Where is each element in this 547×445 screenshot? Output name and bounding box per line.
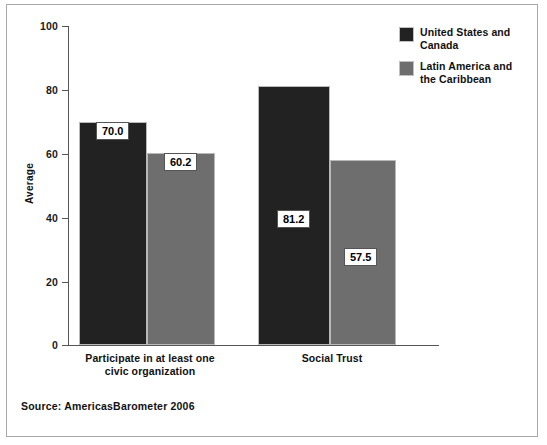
y-tick-label-40-wrap: 40	[20, 212, 58, 224]
x-category-label-participate: Participate in at least one civic organi…	[60, 352, 240, 378]
legend-label-latin-caribbean-line2: the Caribbean	[420, 73, 512, 86]
y-tick-label-100-wrap: 100	[20, 20, 58, 32]
y-tick-label-20-wrap: 20	[20, 276, 58, 288]
legend-swatch-usa-canada	[399, 27, 414, 42]
x-axis-line	[68, 345, 439, 346]
y-tick-mark-0	[62, 345, 68, 346]
x-category-label-social-trust-line1: Social Trust	[262, 352, 402, 365]
legend-swatch-latin-caribbean	[399, 61, 414, 76]
legend-label-usa-canada-line2: Canada	[420, 39, 510, 52]
legend-item-usa-canada[interactable]: United States and Canada	[399, 26, 531, 51]
y-tick-label-0-wrap: 0	[20, 339, 58, 351]
x-category-label-participate-line2: civic organization	[60, 365, 240, 378]
x-category-label-participate-line1: Participate in at least one	[60, 352, 240, 365]
y-tick-label-100: 100	[40, 20, 58, 32]
legend-label-usa-canada-line1: United States and	[420, 26, 510, 39]
y-tick-label-80-wrap: 80	[20, 84, 58, 96]
y-tick-label-0: 0	[52, 339, 58, 351]
y-tick-label-60: 60	[46, 148, 58, 160]
bar-value-latin-caribbean-social-trust: 57.5	[344, 248, 377, 266]
legend-label-latin-caribbean: Latin America and the Caribbean	[420, 60, 512, 85]
legend: United States and Canada Latin America a…	[399, 26, 531, 94]
source-note: Source: AmericasBarometer 2006	[21, 400, 195, 412]
legend-label-latin-caribbean-line1: Latin America and	[420, 60, 512, 73]
y-tick-label-40: 40	[46, 212, 58, 224]
bar-latin-caribbean-participate[interactable]	[147, 153, 215, 345]
bar-value-latin-caribbean-participate: 60.2	[164, 153, 197, 171]
y-tick-label-80: 80	[46, 84, 58, 96]
legend-item-latin-caribbean[interactable]: Latin America and the Caribbean	[399, 60, 531, 85]
bar-value-usa-canada-social-trust: 81.2	[277, 210, 310, 228]
y-tick-label-60-wrap: 60	[20, 148, 58, 160]
plot-area: 70.0 60.2 81.2 57.5	[68, 26, 438, 345]
bar-value-usa-canada-participate: 70.0	[96, 122, 129, 140]
legend-label-usa-canada: United States and Canada	[420, 26, 510, 51]
chart-figure: Average 100 80 60 40 20 0 70.0 60.2 81.2…	[0, 0, 547, 445]
x-category-label-social-trust: Social Trust	[262, 352, 402, 365]
y-tick-label-20: 20	[46, 276, 58, 288]
bar-usa-canada-participate[interactable]	[79, 122, 147, 345]
